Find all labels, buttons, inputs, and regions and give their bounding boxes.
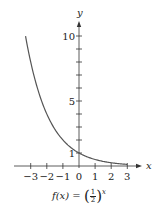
formula-lhs: f(x) =: [52, 190, 81, 201]
y-tick-label: 5: [69, 96, 75, 107]
function-formula: f(x) = (12)x: [0, 187, 158, 205]
y-axis-arrow-icon: [77, 21, 81, 27]
x-tick-label: −1: [56, 171, 71, 182]
chart: xy−3−2−101231510: [0, 0, 158, 217]
x-tick-label: 3: [124, 171, 130, 182]
y-tick-label: 10: [62, 31, 75, 42]
y-tick-label: 1: [69, 148, 75, 159]
x-tick-label: 1: [92, 171, 98, 182]
x-axis-label: x: [146, 160, 152, 171]
formula-exponent: x: [102, 188, 106, 196]
x-tick-label: 2: [108, 171, 114, 182]
series-line: [26, 36, 128, 164]
x-axis-arrow-icon: [136, 164, 142, 168]
x-tick-label: −3: [23, 171, 38, 182]
x-tick-label: −2: [39, 171, 54, 182]
x-tick-label: 0: [76, 171, 82, 182]
y-axis-label: y: [76, 7, 83, 18]
